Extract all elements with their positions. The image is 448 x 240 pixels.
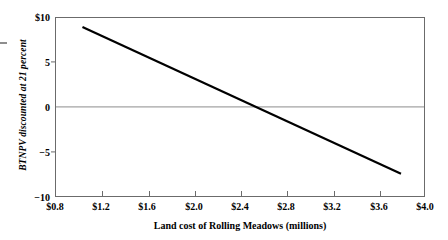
- x-tick-label-6: $3.2: [312, 201, 352, 212]
- y-tick-label-10: $10: [16, 12, 50, 23]
- x-axis-title: Land cost of Rolling Meadows (millions): [55, 220, 425, 231]
- x-tick-label-4: $2.4: [220, 201, 260, 212]
- y-axis-title-rest: discounted at 21 percent: [18, 39, 28, 139]
- x-tick-label-5: $2.8: [266, 201, 306, 212]
- y-tick-label-neg5: −5: [16, 147, 50, 158]
- plot-area: [55, 17, 425, 197]
- btnpv-line: [82, 27, 401, 174]
- y-tick-label-5: 5: [16, 57, 50, 68]
- chart-figure: BTNPV discounted at 21 percent $10 5 0 −…: [0, 0, 448, 240]
- series-layer: [56, 18, 424, 196]
- left-edge-mark: [0, 42, 7, 44]
- x-tick-label-8: $4.0: [405, 201, 445, 212]
- x-tick-label-2: $1.6: [127, 201, 167, 212]
- x-tick-label-3: $2.0: [174, 201, 214, 212]
- x-tick-label-0: $0.8: [35, 201, 75, 212]
- y-tick-label-0: 0: [16, 102, 50, 113]
- x-tick-label-1: $1.2: [81, 201, 121, 212]
- x-tick-label-7: $3.6: [359, 201, 399, 212]
